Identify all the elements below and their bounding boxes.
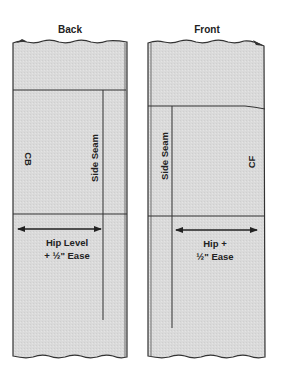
- front-measure-line1: Hip +: [203, 238, 227, 249]
- back-panel-body: [13, 40, 127, 358]
- front-panel-body: [148, 40, 265, 358]
- pattern-diagram: Back Front CB Side Seam Side Seam CF Hip…: [0, 0, 281, 378]
- back-measure-line2: + ½" Ease: [44, 250, 89, 261]
- back-measure-line1: Hip Level: [46, 237, 88, 248]
- front-side-seam-label: Side Seam: [159, 132, 170, 180]
- back-center-label: CB: [23, 152, 34, 166]
- front-measure-line2: ½" Ease: [196, 251, 233, 262]
- front-panel: [148, 40, 265, 358]
- back-panel: [13, 39, 127, 358]
- back-side-seam-label: Side Seam: [89, 134, 100, 182]
- front-title: Front: [194, 24, 220, 35]
- back-title: Back: [58, 24, 82, 35]
- front-center-label: CF: [246, 155, 257, 168]
